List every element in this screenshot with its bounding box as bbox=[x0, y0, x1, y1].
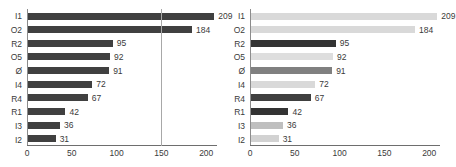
bar bbox=[251, 135, 279, 142]
bar bbox=[251, 67, 332, 74]
bar-value-label: 42 bbox=[69, 108, 78, 116]
category-label: R4 bbox=[0, 95, 25, 103]
bar bbox=[251, 94, 311, 101]
bar bbox=[28, 53, 110, 60]
bar bbox=[251, 13, 437, 20]
bar-value-label: 91 bbox=[113, 67, 122, 75]
category-label: R1 bbox=[223, 108, 248, 116]
category-label: Ø bbox=[0, 67, 25, 75]
bar-row: 36 bbox=[28, 121, 217, 129]
bar-value-label: 36 bbox=[64, 121, 73, 129]
category-label: I3 bbox=[223, 122, 248, 130]
x-tick-label: 100 bbox=[110, 148, 124, 158]
category-label: I2 bbox=[0, 136, 25, 144]
bar-row: 184 bbox=[251, 26, 440, 34]
clipped-caption-text: · ·· · ·· · ·· ·· · · ·· · ·· · · ·· · ·… bbox=[0, 163, 446, 167]
category-label: R2 bbox=[0, 40, 25, 48]
bar bbox=[251, 53, 333, 60]
bar-row: 95 bbox=[28, 39, 217, 47]
x-tick-label: 150 bbox=[154, 148, 168, 158]
bar-value-label: 31 bbox=[60, 135, 69, 143]
category-label: I1 bbox=[223, 12, 248, 20]
category-label: I4 bbox=[0, 81, 25, 89]
x-tick-label: 0 bbox=[248, 148, 253, 158]
x-tick-label: 100 bbox=[333, 148, 347, 158]
bar-row: 95 bbox=[251, 39, 440, 47]
category-label: Ø bbox=[223, 67, 248, 75]
bar bbox=[251, 81, 315, 88]
bar-row: 184 bbox=[28, 26, 217, 34]
right-x-axis-line bbox=[250, 145, 440, 146]
bar-row: 67 bbox=[251, 94, 440, 102]
bar-row: 209 bbox=[28, 12, 217, 20]
reference-line bbox=[161, 9, 162, 146]
bar-row: 42 bbox=[251, 108, 440, 116]
left-chart-panel: I1O2R2O5ØI4R4R1I3I2 20918495929172674236… bbox=[0, 0, 223, 167]
right-chart-panel: I1O2R2O5ØI4R4R1I3I2 20918495929172674236… bbox=[223, 0, 446, 167]
bar bbox=[251, 108, 288, 115]
bar-value-label: 42 bbox=[292, 108, 301, 116]
bar-value-label: 67 bbox=[315, 94, 324, 102]
bar bbox=[28, 67, 109, 74]
category-label: O5 bbox=[0, 53, 25, 61]
category-label: O2 bbox=[223, 26, 248, 34]
bar bbox=[28, 122, 60, 129]
left-category-axis-labels: I1O2R2O5ØI4R4R1I3I2 bbox=[0, 9, 25, 146]
bar-value-label: 184 bbox=[196, 26, 210, 34]
bar-row: 31 bbox=[251, 135, 440, 143]
bar-value-label: 67 bbox=[92, 94, 101, 102]
left-plot-area: 2091849592917267423631 bbox=[27, 9, 217, 146]
bar-value-label: 184 bbox=[419, 26, 433, 34]
bar bbox=[28, 26, 192, 33]
category-label: I2 bbox=[223, 136, 248, 144]
right-x-axis-tick-labels: 050100150200 bbox=[250, 148, 440, 160]
left-bar-series: 2091849592917267423631 bbox=[28, 9, 217, 145]
bar-value-label: 95 bbox=[117, 39, 126, 47]
left-x-axis-tick-labels: 050100150200 bbox=[27, 148, 217, 160]
bar bbox=[251, 26, 415, 33]
category-label: R1 bbox=[0, 108, 25, 116]
bar-value-label: 31 bbox=[283, 135, 292, 143]
bar bbox=[28, 40, 113, 47]
x-tick-label: 50 bbox=[67, 148, 76, 158]
bar-value-label: 36 bbox=[287, 121, 296, 129]
bar-row: 67 bbox=[28, 94, 217, 102]
x-tick-label: 50 bbox=[290, 148, 299, 158]
category-label: I1 bbox=[0, 12, 25, 20]
bar bbox=[28, 108, 65, 115]
bar bbox=[28, 81, 92, 88]
bar-value-label: 92 bbox=[337, 53, 346, 61]
right-category-axis-labels: I1O2R2O5ØI4R4R1I3I2 bbox=[223, 9, 248, 146]
bar bbox=[28, 13, 214, 20]
category-label: O2 bbox=[0, 26, 25, 34]
bar-value-label: 72 bbox=[319, 80, 328, 88]
category-label: R4 bbox=[223, 95, 248, 103]
bar-row: 92 bbox=[251, 53, 440, 61]
bar-value-label: 209 bbox=[441, 12, 455, 20]
bar-row: 92 bbox=[28, 53, 217, 61]
clipped-caption: · ·· · ·· · ·· ·· · · ·· · ·· · · ·· · ·… bbox=[0, 163, 446, 167]
bar-row: 42 bbox=[28, 108, 217, 116]
category-label: I3 bbox=[0, 122, 25, 130]
right-plot-area: 2091849592917267423631 bbox=[250, 9, 440, 146]
category-label: R2 bbox=[223, 40, 248, 48]
bar-row: 31 bbox=[28, 135, 217, 143]
category-label: O5 bbox=[223, 53, 248, 61]
bar-row: 36 bbox=[251, 121, 440, 129]
x-tick-label: 200 bbox=[199, 148, 213, 158]
bar bbox=[251, 40, 336, 47]
bar-row: 209 bbox=[251, 12, 440, 20]
bar-value-label: 92 bbox=[114, 53, 123, 61]
bar-row: 72 bbox=[28, 80, 217, 88]
bar-row: 72 bbox=[251, 80, 440, 88]
bar-value-label: 95 bbox=[340, 39, 349, 47]
x-tick-label: 0 bbox=[25, 148, 30, 158]
right-bar-series: 2091849592917267423631 bbox=[251, 9, 440, 145]
bar bbox=[28, 94, 88, 101]
bar-row: 91 bbox=[251, 67, 440, 75]
bar-row: 91 bbox=[28, 67, 217, 75]
x-tick-label: 200 bbox=[422, 148, 436, 158]
category-label: I4 bbox=[223, 81, 248, 89]
left-x-axis-line bbox=[27, 145, 217, 146]
